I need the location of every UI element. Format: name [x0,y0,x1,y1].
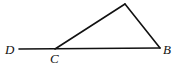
side-ca [55,4,125,49]
triangle-diagram: D C B [0,0,174,66]
label-c: C [50,51,59,66]
line-db [19,48,160,49]
label-d: D [4,42,15,57]
label-b: B [163,42,171,57]
side-ab [125,4,160,48]
